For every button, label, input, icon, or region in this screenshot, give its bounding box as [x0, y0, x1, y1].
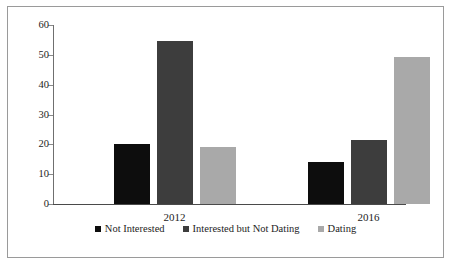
bar-chart-figure: 0102030405060 20122016 Not InterestedInt…	[7, 6, 444, 258]
legend-label: Not Interested	[105, 223, 165, 234]
legend-swatch-icon	[318, 226, 324, 232]
legend-item[interactable]: Interested but Not Dating	[183, 223, 300, 234]
y-axis-tick-label: 60	[39, 20, 50, 31]
bar	[157, 41, 193, 204]
legend-label: Interested but Not Dating	[193, 223, 300, 234]
y-axis-line	[53, 25, 54, 204]
plot-area: 0102030405060 20122016	[53, 25, 406, 204]
bar	[351, 140, 387, 204]
y-axis-tick-label: 40	[39, 79, 50, 90]
legend-item[interactable]: Not Interested	[95, 223, 165, 234]
bar	[200, 147, 236, 204]
y-axis-tick-label: 20	[39, 139, 50, 150]
legend-item[interactable]: Dating	[318, 223, 357, 234]
y-axis-tick-label: 50	[39, 50, 50, 61]
legend-swatch-icon	[95, 226, 101, 232]
legend-swatch-icon	[183, 226, 189, 232]
bar	[308, 162, 344, 204]
x-axis-category-label: 2012	[164, 211, 186, 223]
y-axis-tick-label: 0	[44, 199, 49, 210]
bar	[114, 144, 150, 204]
legend-label: Dating	[328, 223, 357, 234]
x-axis-line	[53, 204, 406, 205]
y-axis-tick-label: 10	[39, 169, 50, 180]
y-axis-tick-label: 30	[39, 109, 50, 120]
bar	[394, 57, 430, 204]
x-axis-category-label: 2016	[358, 211, 380, 223]
chart-legend: Not InterestedInterested but Not DatingD…	[8, 223, 443, 234]
